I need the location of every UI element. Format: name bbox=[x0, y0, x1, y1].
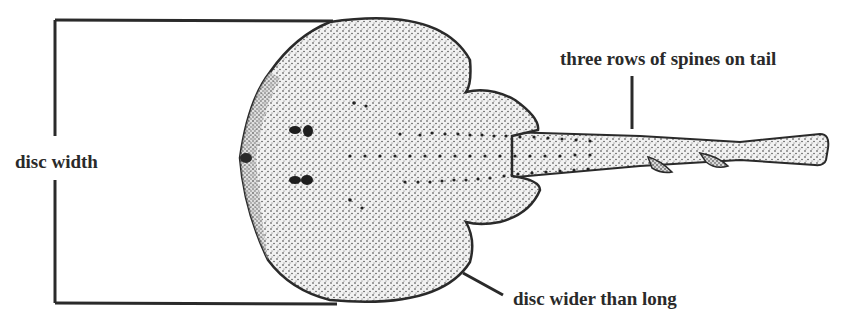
disc-shape-leader-line bbox=[463, 273, 503, 295]
disc-shape-label: disc wider than long bbox=[513, 289, 677, 308]
disc-width-label: disc width bbox=[15, 152, 98, 171]
tail-spines-label: three rows of spines on tail bbox=[560, 49, 776, 68]
tail bbox=[505, 132, 828, 178]
snout-mark bbox=[240, 153, 252, 163]
skate-diagram: disc width three rows of spines on tail … bbox=[0, 0, 841, 324]
